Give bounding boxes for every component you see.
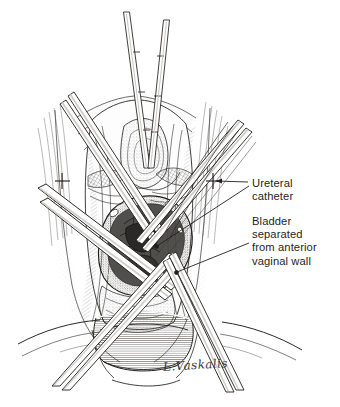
partial-caption	[0, 396, 340, 407]
surgical-field-illustration	[0, 0, 340, 407]
figure-root: Ureteral catheter Bladder separated from…	[0, 0, 340, 407]
label-ureteral-catheter: Ureteral catheter	[252, 177, 293, 203]
label-bladder-separated: Bladder separated from anterior vaginal …	[252, 215, 317, 268]
